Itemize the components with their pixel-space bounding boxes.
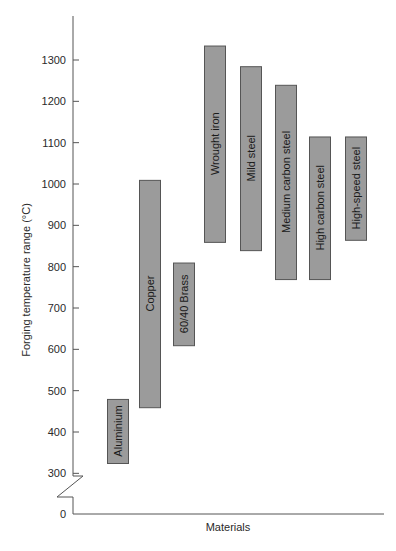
y-tick-label: 300: [48, 467, 66, 479]
y-tick-label: 800: [48, 261, 66, 273]
y-tick-label: 700: [48, 302, 66, 314]
y-tick-label: 1000: [42, 178, 66, 190]
bar-label: Copper: [144, 275, 156, 311]
bar-copper: Copper: [140, 180, 161, 407]
bar-medium-carbon-steel: Medium carbon steel: [276, 85, 297, 279]
bar-mild-steel: Mild steel: [241, 67, 262, 251]
y-tick-label: 1300: [42, 54, 66, 66]
y-tick-label: 400: [48, 426, 66, 438]
bar-label: High carbon steel: [314, 165, 326, 251]
y-axis-title: Forging temperature range (°C): [20, 203, 32, 357]
bar-high-carbon-steel: High carbon steel: [310, 137, 331, 280]
bar-label: Mild steel: [245, 135, 257, 181]
bar-aluminium: Aluminium: [108, 399, 129, 463]
x-axis-title: Materials: [206, 521, 251, 533]
y-tick-label: 600: [48, 343, 66, 355]
bar-high-speed-steel: High-speed steel: [346, 137, 367, 240]
y-tick-label: 1100: [42, 137, 66, 149]
y-tick-label: 0: [60, 508, 66, 520]
bar-label: Medium carbon steel: [280, 131, 292, 233]
y-tick-label: 500: [48, 385, 66, 397]
bar-wrought-iron: Wrought iron: [205, 46, 226, 242]
forging-temperature-chart: AluminiumCopper60/40 BrassWrought ironMi…: [0, 0, 396, 551]
y-tick-label: 900: [48, 219, 66, 231]
y-tick-label: 1200: [42, 95, 66, 107]
bar-label: Wrought iron: [209, 112, 221, 175]
bars-group: AluminiumCopper60/40 BrassWrought ironMi…: [108, 46, 367, 463]
bar-60-40-brass: 60/40 Brass: [174, 263, 195, 346]
bar-label: 60/40 Brass: [178, 274, 190, 333]
bar-label: Aluminium: [112, 405, 124, 456]
bar-label: High-speed steel: [350, 147, 362, 230]
